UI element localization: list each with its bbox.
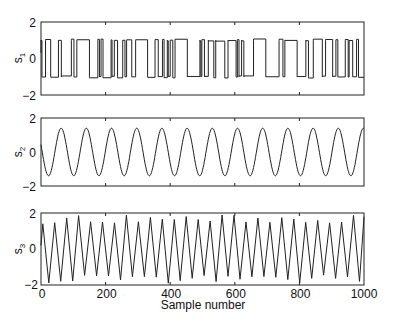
ticks-s1 bbox=[106, 22, 300, 95]
xtick-1000: 1000 bbox=[351, 287, 378, 301]
series-line-s1 bbox=[41, 39, 364, 78]
svg-text:s3: s3 bbox=[11, 243, 27, 254]
ytick-0: 0 bbox=[29, 146, 36, 160]
svg-text:s2: s2 bbox=[11, 146, 27, 157]
ytick-neg2: −2 bbox=[22, 180, 36, 194]
panel-s2: 2 0 −2 s2 bbox=[11, 112, 364, 194]
ytick-0: 0 bbox=[29, 242, 36, 256]
panel-s1: 2 0 −2 s1 bbox=[11, 16, 364, 103]
ytick-2: 2 bbox=[29, 112, 36, 126]
ytick-0: 0 bbox=[29, 52, 36, 66]
ytick-2: 2 bbox=[29, 16, 36, 30]
ylabel-s3: s3 bbox=[11, 243, 27, 254]
ytick-neg2: −2 bbox=[24, 278, 38, 292]
series-line-s2 bbox=[41, 128, 364, 176]
series-line-s3 bbox=[41, 215, 364, 283]
ytick-neg2: −2 bbox=[22, 89, 36, 103]
ytick-2: 2 bbox=[29, 207, 36, 221]
svg-text:s1: s1 bbox=[11, 52, 27, 63]
plot-frame-s2 bbox=[41, 118, 364, 186]
x-axis-label: Sample number bbox=[161, 298, 246, 312]
plot-frame-s3 bbox=[41, 213, 364, 285]
panel-s3: 2 0 −2 s3 0 200 400 600 800 1000 Sample … bbox=[11, 207, 378, 312]
xtick-0: 0 bbox=[39, 287, 46, 301]
xtick-200: 200 bbox=[97, 287, 117, 301]
figure: 2 0 −2 s1 2 0 −2 s2 2 0 −2 s3 0 200 400 … bbox=[0, 0, 396, 326]
ylabel-s2: s2 bbox=[11, 146, 27, 157]
ticks-s2 bbox=[106, 118, 300, 186]
ylabel-s1: s1 bbox=[11, 52, 27, 63]
xtick-800: 800 bbox=[290, 287, 310, 301]
